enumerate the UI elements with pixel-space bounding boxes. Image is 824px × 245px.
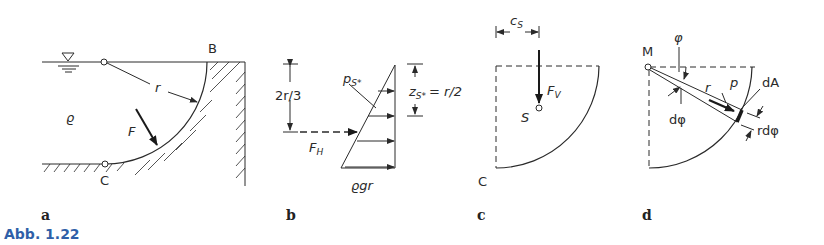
label-ps: pS*: [342, 71, 362, 88]
pressure-arrow-p: [709, 100, 734, 111]
panel-letter-d: d: [642, 207, 652, 223]
label-phi: φ: [674, 30, 683, 45]
sector-line-lower: [650, 70, 737, 122]
figure-canvas: B C r ϱ F a 2r/3 pS* zS*= r/2 FH ϱgr b: [0, 0, 824, 245]
label-zs: zS*= r/2: [408, 84, 462, 101]
sector-line-upper: [651, 68, 742, 110]
panel-letter-b: b: [286, 207, 296, 223]
label-r-d: r: [705, 80, 712, 95]
curved-surface: [105, 62, 207, 164]
label-p-d: p: [729, 75, 738, 90]
label-r: r: [155, 80, 162, 95]
centroid-s: [536, 105, 542, 111]
label-b: B: [208, 41, 217, 56]
force-arrow-f: [136, 109, 157, 145]
quarter-arc: [496, 66, 599, 168]
figure-caption: Abb. 1.22: [4, 226, 80, 242]
label-c: C: [100, 173, 109, 188]
label-2r3: 2r/3: [275, 88, 301, 103]
label-s: S: [521, 110, 529, 125]
label-rdphi: rdφ: [757, 123, 779, 138]
label-fh: FH: [309, 140, 323, 157]
label-c-point: C: [478, 174, 487, 189]
arc-center-point: [101, 59, 107, 65]
panel-letter-c: c: [477, 207, 486, 223]
panel-letter-a: a: [41, 207, 50, 223]
wall-hatching-icon: [135, 62, 245, 178]
label-dphi: dφ: [669, 112, 686, 127]
label-rho: ϱ: [66, 110, 75, 125]
label-da: dA: [762, 75, 779, 90]
label-cs: cS: [510, 13, 523, 30]
area-element-da: [737, 110, 742, 122]
label-f: F: [128, 124, 136, 139]
label-rho-g-r: ϱgr: [351, 178, 375, 193]
label-fv: FV: [547, 83, 561, 100]
point-m: [645, 64, 651, 70]
label-m: M: [642, 44, 653, 59]
panel-d: [645, 47, 763, 168]
point-c: [102, 161, 108, 167]
